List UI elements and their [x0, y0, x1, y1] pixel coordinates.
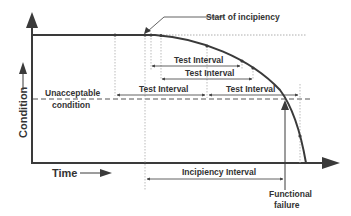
test-interval-label-4: Test Interval: [226, 84, 275, 94]
test-interval-label-3: Test Interval: [139, 84, 188, 94]
functional-failure-marker: [281, 100, 289, 190]
functional-failure-label-line1: Functional: [269, 189, 312, 199]
incipiency-interval-label: Incipiency Interval: [182, 167, 256, 177]
test-interval-label-1: Test Interval: [174, 55, 223, 65]
x-axis-label: Time: [52, 167, 77, 179]
start-of-incipiency-label: Start of incipiency: [206, 12, 280, 22]
y-axis-arrow-icon: [26, 12, 38, 28]
functional-failure-label-line2: failure: [274, 200, 300, 210]
x-axis-arrow-icon: [322, 157, 340, 169]
unacceptable-condition-label-line1: Unacceptable: [45, 88, 101, 98]
x-axis-label-arrow: [80, 169, 112, 177]
y-axis-label-arrow: [19, 62, 27, 90]
y-axis-label: Condition: [17, 86, 29, 138]
pf-curve-diagram: Start of incipiency Test Interval Test I…: [0, 0, 351, 216]
test-interval-label-2: Test Interval: [185, 68, 234, 78]
unacceptable-condition-label-line2: condition: [52, 100, 90, 110]
